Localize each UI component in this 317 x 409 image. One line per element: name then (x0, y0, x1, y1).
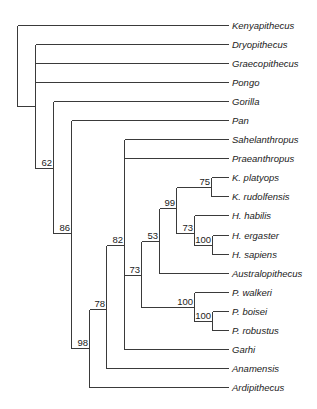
taxon-label: K. rudolfensis (232, 191, 290, 202)
taxon-label: Kenyapithecus (232, 20, 295, 31)
support-value-n98: 98 (77, 337, 88, 348)
taxon-label: Ardipithecus (231, 382, 285, 393)
support-value-n78: 78 (94, 298, 105, 309)
taxon-label: H. sapiens (232, 249, 277, 260)
taxon-label: Praeanthropus (232, 153, 295, 164)
support-value-n73a: 73 (129, 264, 140, 275)
taxon-label: P. boisei (232, 306, 268, 317)
taxon-label: Pan (232, 115, 249, 126)
taxon-label: Anamensis (231, 363, 279, 374)
taxon-label: H. ergaster (232, 230, 280, 241)
support-value-n86: 86 (59, 222, 70, 233)
taxon-label: Gorilla (232, 96, 259, 107)
taxon-label: P. robustus (232, 325, 279, 336)
phylogenetic-tree: 62869878827353997573100100100 Kenyapithe… (0, 0, 317, 409)
taxon-label: Graecopithecus (232, 58, 299, 69)
taxon-label: H. habilis (232, 210, 271, 221)
taxon-label: P. walkeri (232, 287, 273, 298)
support-value-n53: 53 (147, 230, 158, 241)
support-value-n100b: 100 (177, 296, 193, 307)
taxon-label: K. platyops (232, 172, 279, 183)
support-value-n100c: 100 (195, 310, 211, 321)
support-value-n62: 62 (41, 157, 52, 168)
support-value-n100a: 100 (195, 234, 211, 245)
taxon-label: Garhi (232, 344, 256, 355)
taxon-label: Australopithecus (231, 268, 302, 279)
taxon-labels: KenyapithecusDryopithecusGraecopithecusP… (231, 20, 302, 393)
taxon-label: Pongo (232, 77, 259, 88)
support-value-n99: 99 (164, 197, 175, 208)
taxon-label: Dryopithecus (232, 39, 288, 50)
tree-branches (18, 26, 229, 388)
support-value-n73b: 73 (182, 222, 193, 233)
support-value-n75: 75 (199, 176, 210, 187)
bootstrap-support-values: 62869878827353997573100100100 (41, 157, 211, 348)
support-value-n82: 82 (112, 234, 123, 245)
taxon-label: Sahelanthropus (232, 134, 299, 145)
